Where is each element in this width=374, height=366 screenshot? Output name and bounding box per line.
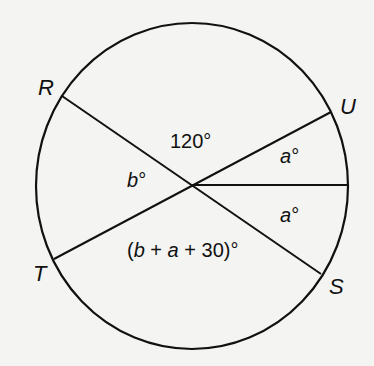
angle-label-bottom: (b + a + 30)° — [127, 239, 238, 261]
diagram-canvas: R U T S 120° b° a° a° (b + a + 30)° — [0, 0, 374, 366]
var-a: a — [280, 204, 291, 226]
degree-sign: ° — [138, 169, 146, 191]
angle-label-top: 120° — [170, 130, 211, 152]
angle-label-lower-right: a° — [280, 204, 299, 226]
var-b: b — [134, 239, 145, 261]
expr-rest: + 30)° — [179, 239, 239, 261]
geometry-diagram: R U T S 120° b° a° a° (b + a + 30)° — [0, 0, 374, 366]
angle-label-upper-right: a° — [280, 145, 299, 167]
var-a: a — [280, 145, 291, 167]
point-label-r: R — [38, 75, 54, 100]
var-a: a — [168, 239, 179, 261]
degree-sign: ° — [291, 145, 299, 167]
degree-sign: ° — [291, 204, 299, 226]
var-b: b — [127, 169, 138, 191]
angle-label-left: b° — [127, 169, 146, 191]
plus-sign: + — [145, 239, 168, 261]
point-label-s: S — [329, 274, 344, 299]
point-label-t: T — [33, 261, 48, 286]
point-label-u: U — [340, 94, 356, 119]
